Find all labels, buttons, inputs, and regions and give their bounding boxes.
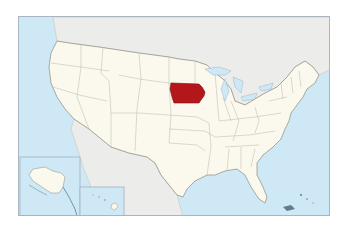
us-locator-map [18, 16, 330, 216]
iowa-highlighted-state [170, 83, 205, 103]
map-svg [19, 17, 330, 216]
hawaii-inset [80, 187, 124, 216]
alaska-inset [20, 157, 80, 216]
